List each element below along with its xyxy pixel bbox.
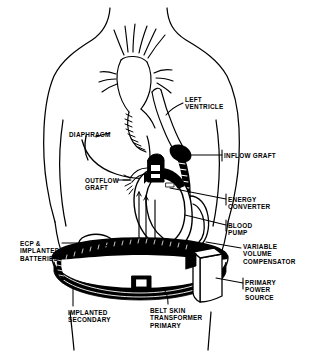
label-ecp-implanted-batteries: ECP & IMPLANTED BATTERIES [20, 240, 60, 262]
label-primary-power-source: PRIMARY POWER SOURCE [245, 279, 276, 301]
label-diaphragm: DIAPHRAGM [69, 131, 111, 138]
label-outflow-graft: OUTFLOW GRAFT [85, 177, 119, 192]
converter-outlet-slot [166, 183, 174, 187]
label-belt-skin-transformer-primary: BELT SKIN TRANSFORMER PRIMARY [150, 307, 202, 329]
label-inflow-graft: INFLOW GRAFT [224, 152, 276, 159]
label-left-ventricle: LEFT VENTRICLE [185, 96, 223, 111]
label-variable-volume-compensator: VARIABLE VOLUME COMPENSATOR [243, 243, 296, 265]
heart-and-great-vessels [99, 24, 185, 152]
figure-canvas: LEFT VENTRICLE DIAPHRAGM INFLOW GRAFT OU… [0, 0, 311, 354]
label-blood-pump: BLOOD PUMP [228, 222, 252, 237]
label-implanted-secondary: IMPLANTED SECONDARY [68, 309, 111, 324]
belt-buckle [132, 276, 151, 290]
label-energy-converter: ENERGY CONVERTER [228, 196, 270, 211]
